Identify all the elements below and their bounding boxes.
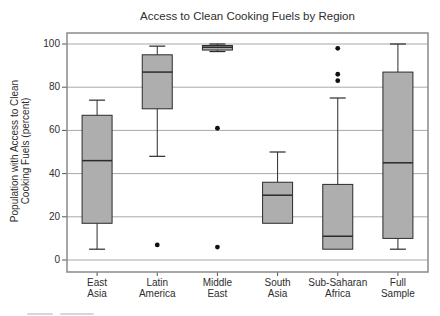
y-tick-label: 60 (26, 124, 60, 136)
box-body (142, 55, 172, 109)
outlier-dot (335, 46, 340, 51)
outlier-dot (335, 78, 340, 83)
box-body (82, 115, 112, 223)
plot-area (0, 0, 440, 316)
box-body (383, 72, 413, 238)
y-tick-label: 20 (26, 211, 60, 223)
y-tick-label: 100 (26, 38, 60, 50)
outlier-dot (215, 245, 220, 250)
boxplot-figure: Access to Clean Cooking Fuels by Region … (0, 0, 440, 316)
box-body (323, 184, 353, 249)
outlier-dot (335, 72, 340, 77)
outlier-dot (215, 126, 220, 131)
box-body (263, 182, 293, 223)
cropped-caption-remnant (27, 313, 53, 315)
cropped-caption-remnant (60, 313, 94, 315)
y-tick-label: 0 (26, 254, 60, 266)
outlier-dot (155, 242, 160, 247)
x-category-label: Full Sample (356, 277, 440, 299)
plot-background (67, 33, 428, 272)
y-tick-label: 40 (26, 168, 60, 180)
y-tick-label: 80 (26, 81, 60, 93)
